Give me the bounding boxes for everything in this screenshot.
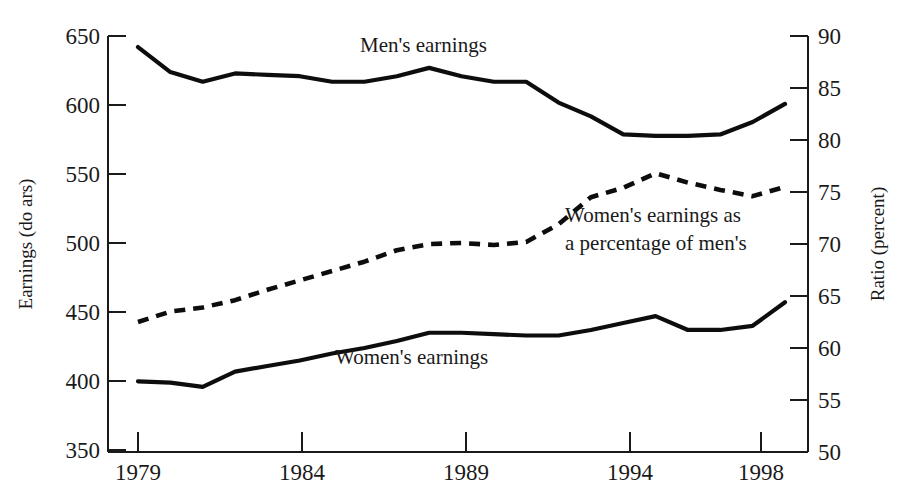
right-tick-label-80: 80 <box>818 128 841 153</box>
x-tick-label-1984: 1984 <box>279 460 326 485</box>
left-tick-label-600: 600 <box>66 93 101 118</box>
right-tick-label-65: 65 <box>818 284 841 309</box>
left-tick-label-550: 550 <box>66 162 101 187</box>
right-tick-label-50: 50 <box>818 440 841 465</box>
right-tick-label-85: 85 <box>818 76 841 101</box>
x-tick-label-1994: 1994 <box>607 460 654 485</box>
x-tick-label-1998: 1998 <box>738 460 784 485</box>
ratio-label-line1: Women's earnings as <box>565 203 741 227</box>
left-axis-title: Earnings (do ars) <box>15 179 37 310</box>
right-tick-label-55: 55 <box>818 388 841 413</box>
right-tick-label-75: 75 <box>818 180 841 205</box>
left-tick-label-450: 450 <box>66 300 101 325</box>
chart-container: 650 600 550 500 450 400 350 Earnings (do… <box>0 0 906 488</box>
womens-earnings-label: Women's earnings <box>335 345 488 369</box>
left-tick-label-650: 650 <box>66 24 101 49</box>
left-tick-label-400: 400 <box>66 369 101 394</box>
earnings-ratio-line-chart: 650 600 550 500 450 400 350 Earnings (do… <box>0 0 906 488</box>
right-axis-tick-labels: 90 85 80 75 70 65 60 55 50 <box>818 24 841 465</box>
x-tick-label-1989: 1989 <box>443 460 489 485</box>
left-tick-label-500: 500 <box>66 231 101 256</box>
x-tick-label-1979: 1979 <box>115 460 161 485</box>
mens-earnings-label: Men's earnings <box>360 33 487 57</box>
right-tick-label-90: 90 <box>818 24 841 49</box>
right-tick-label-60: 60 <box>818 336 841 361</box>
right-tick-label-70: 70 <box>818 232 841 257</box>
left-tick-label-350: 350 <box>66 438 101 463</box>
right-axis-title: Ratio (percent) <box>867 187 889 301</box>
ratio-label-line2: a percentage of men's <box>565 231 747 255</box>
